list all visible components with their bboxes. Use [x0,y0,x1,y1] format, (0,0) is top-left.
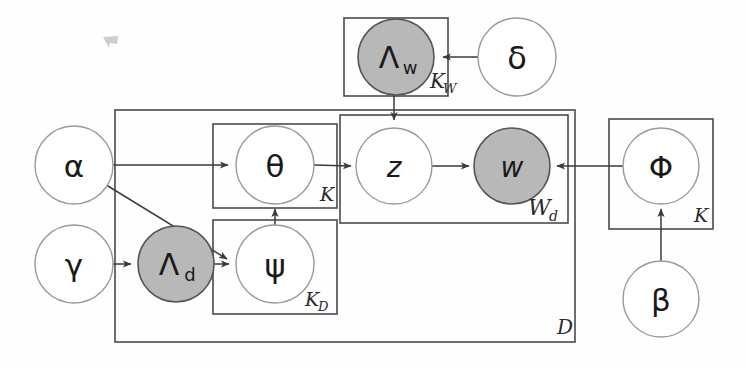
node-gamma[interactable]: γ [35,225,113,303]
node-z-label: z [386,151,403,184]
node-delta[interactable]: δ [478,18,556,96]
node-w-label: w [501,151,524,184]
node-theta-label: θ [266,148,285,184]
node-lambda-w-subscript: w [403,57,418,78]
node-group: Λ w δ α γ Λ d θ [35,18,699,337]
node-z[interactable]: z [356,128,432,204]
node-beta[interactable]: β [623,261,699,337]
node-alpha-label: α [64,148,84,184]
plate-label-k-theta-main: K [319,183,336,205]
scan-artifact [103,36,118,48]
node-lambda-d-subscript: d [184,264,195,285]
plate-label-k-theta: K [319,183,336,205]
node-lambda-d[interactable]: Λ d [138,226,214,302]
node-psi[interactable]: ψ [236,225,314,303]
node-phi-label: Φ [649,149,673,185]
node-lambda-w-label: Λ [379,40,400,75]
plate-label-kw-sub: W [443,81,458,96]
node-alpha[interactable]: α [35,126,113,204]
plate-label-wd: W d [528,195,558,224]
plate-label-d-main: D [556,315,573,339]
node-gamma-label: γ [65,247,83,283]
graphical-model-svg: Λ w δ α γ Λ d θ [0,0,746,368]
plate-label-d: D [556,315,573,339]
node-lambda-d-label: Λ [159,247,180,282]
plate-label-kw: K W [429,69,458,96]
node-theta[interactable]: θ [236,126,314,204]
node-lambda-w[interactable]: Λ w [358,19,434,95]
node-w[interactable]: w [474,128,550,204]
plate-label-k-phi-main: K [693,204,710,226]
plate-label-k-phi: K [693,204,710,226]
edge-theta-to-z [314,165,351,166]
diagram-canvas: Λ w δ α γ Λ d θ [0,0,746,368]
node-delta-label: δ [507,39,527,77]
node-beta-label: β [651,282,671,318]
plate-label-wd-sub: d [549,208,558,224]
node-psi-label: ψ [264,247,285,285]
plate-label-kd: K D [304,288,329,314]
plate-label-kd-sub: D [317,299,329,314]
node-phi[interactable]: Φ [623,128,699,204]
